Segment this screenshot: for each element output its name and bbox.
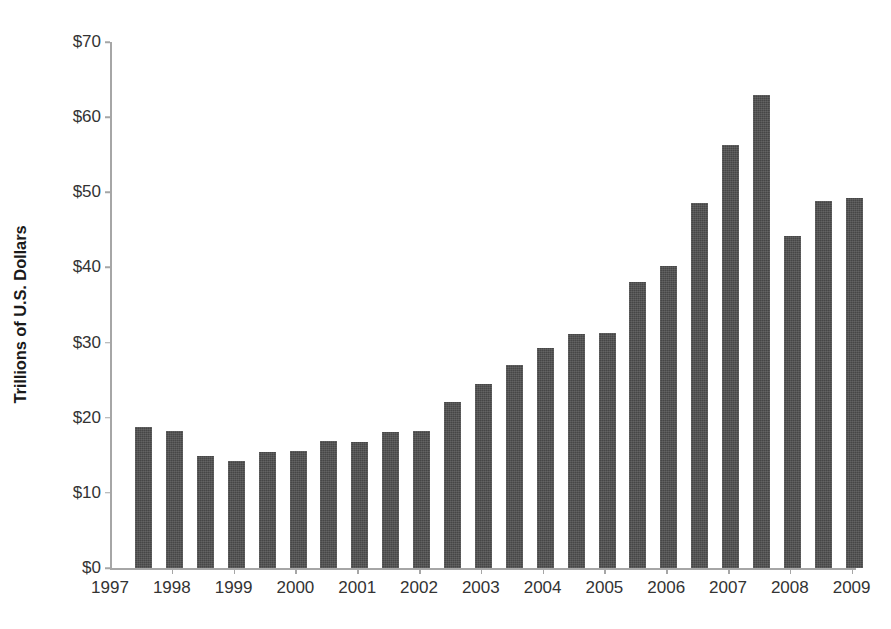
x-tick-label: 2002 [400, 578, 438, 598]
bar [135, 427, 152, 568]
y-tick-label: $20 [73, 408, 101, 428]
bar [691, 203, 708, 568]
x-tick-label: 2003 [462, 578, 500, 598]
y-tick-label: $40 [73, 257, 101, 277]
plot-area: $0$10$20$30$40$50$60$70 1997199819992000… [110, 42, 856, 568]
bar [629, 282, 646, 568]
x-tick-label: 2008 [771, 578, 809, 598]
bar [197, 456, 214, 568]
y-tick-mark [105, 267, 110, 269]
y-tick-mark [105, 567, 110, 569]
bar [722, 145, 739, 568]
x-tick-label: 1998 [153, 578, 191, 598]
y-tick-label: $50 [73, 182, 101, 202]
x-tick-label: 1999 [215, 578, 253, 598]
y-tick-label: $60 [73, 107, 101, 127]
x-tick-label: 2000 [276, 578, 314, 598]
y-tick-mark [105, 492, 110, 494]
x-tick-label: 2001 [338, 578, 376, 598]
bar [568, 334, 585, 568]
y-axis-title: Trillions of U.S. Dollars [0, 0, 40, 629]
bar [537, 348, 554, 568]
x-tick-label: 2007 [709, 578, 747, 598]
x-axis-line [110, 568, 856, 570]
x-tick-label: 2009 [833, 578, 871, 598]
bar [444, 402, 461, 568]
x-tick-label: 2004 [524, 578, 562, 598]
y-tick-mark [105, 342, 110, 344]
x-tick-mark [790, 568, 792, 574]
y-tick-label: $30 [73, 333, 101, 353]
bar [382, 432, 399, 568]
bar [753, 95, 770, 568]
y-tick-mark [105, 41, 110, 43]
bar [784, 236, 801, 568]
bar [351, 442, 368, 568]
x-tick-mark [852, 568, 854, 574]
x-tick-mark [543, 568, 545, 574]
y-tick-label: $70 [73, 32, 101, 52]
bar [475, 384, 492, 568]
x-tick-label: 2006 [647, 578, 685, 598]
y-tick-label: $0 [82, 558, 101, 578]
y-tick-mark [105, 192, 110, 194]
y-axis-line [110, 42, 112, 568]
x-tick-mark [295, 568, 297, 574]
bar [506, 365, 523, 568]
x-tick-mark [604, 568, 606, 574]
bar [599, 333, 616, 568]
x-tick-mark [419, 568, 421, 574]
bar [259, 452, 276, 568]
bar [166, 431, 183, 568]
x-tick-mark [172, 568, 174, 574]
bar-chart: Trillions of U.S. Dollars $0$10$20$30$40… [0, 0, 891, 629]
bar [815, 201, 832, 568]
bar [413, 431, 430, 569]
bar [320, 441, 337, 568]
y-tick-mark [105, 417, 110, 419]
y-tick-label: $10 [73, 483, 101, 503]
x-tick-label: 2005 [585, 578, 623, 598]
x-tick-mark [357, 568, 359, 574]
x-tick-mark [666, 568, 668, 574]
x-tick-mark [728, 568, 730, 574]
x-tick-mark [481, 568, 483, 574]
x-tick-label: 1997 [91, 578, 129, 598]
bar [228, 461, 245, 568]
bar [846, 198, 863, 568]
x-tick-mark [234, 568, 236, 574]
y-tick-mark [105, 116, 110, 118]
bar [660, 266, 677, 568]
bar [290, 451, 307, 568]
